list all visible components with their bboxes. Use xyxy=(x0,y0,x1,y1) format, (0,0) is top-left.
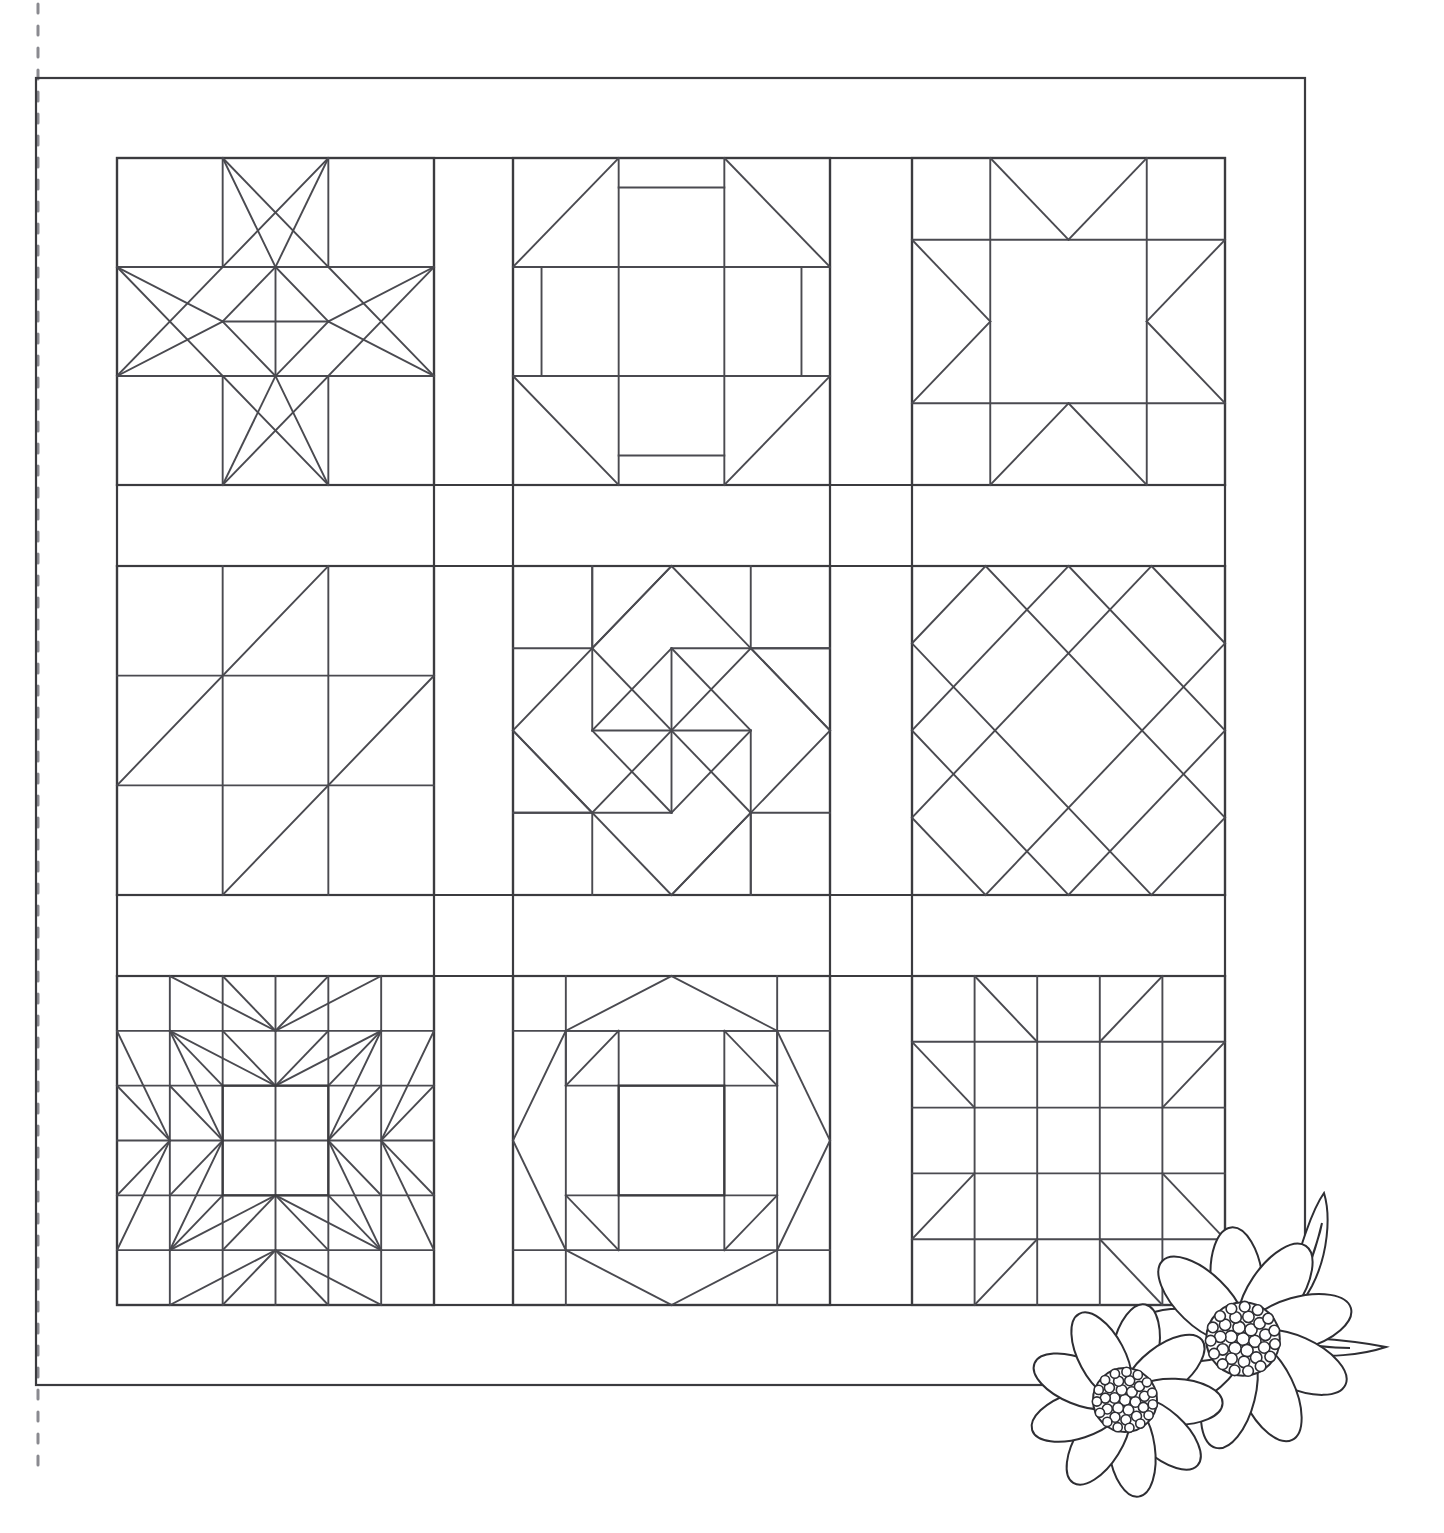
flower-center-dot xyxy=(1265,1351,1276,1362)
flower-center-dot xyxy=(1209,1348,1220,1359)
flower-center-dot xyxy=(1208,1322,1219,1333)
quilt-pattern-page xyxy=(0,0,1444,1533)
flower-center-dot xyxy=(1133,1370,1142,1379)
flower-center-dot xyxy=(1094,1385,1103,1394)
flower-center-dot xyxy=(1269,1325,1280,1336)
flower-center-dot xyxy=(1110,1369,1119,1378)
flower-center-dot xyxy=(1142,1378,1151,1387)
flower-center-dot xyxy=(1113,1423,1122,1432)
flower-center-dot xyxy=(1270,1339,1281,1350)
flower-center-dot xyxy=(1226,1304,1237,1315)
flower-center-dot xyxy=(1217,1359,1228,1370)
flower-center-dot xyxy=(1239,1301,1250,1312)
flower-center-cluster xyxy=(1205,1301,1280,1376)
flower-center-dot xyxy=(1255,1361,1266,1372)
flower-center-dot xyxy=(1205,1335,1216,1346)
flower-center-dot xyxy=(1136,1419,1145,1428)
flower-center-dot xyxy=(1263,1313,1274,1324)
flower-center-dot xyxy=(1215,1311,1226,1322)
flower-center-dot xyxy=(1125,1423,1134,1432)
flower-center-dot xyxy=(1103,1417,1112,1426)
flower-center-dot xyxy=(1092,1397,1101,1406)
quilt-pattern-drawing xyxy=(0,0,1444,1533)
flower-center-dot xyxy=(1148,1400,1157,1409)
flower-center-dot xyxy=(1252,1305,1263,1316)
flower-center-dot xyxy=(1101,1376,1110,1385)
flower-center-dot xyxy=(1229,1365,1240,1376)
flower-center-dot xyxy=(1243,1366,1254,1377)
flower-center-cluster xyxy=(1092,1367,1157,1432)
flower-center-dot xyxy=(1122,1367,1131,1376)
flower-center-dot xyxy=(1095,1408,1104,1417)
flower-center-dot xyxy=(1144,1411,1153,1420)
flower-center-dot xyxy=(1148,1388,1157,1397)
